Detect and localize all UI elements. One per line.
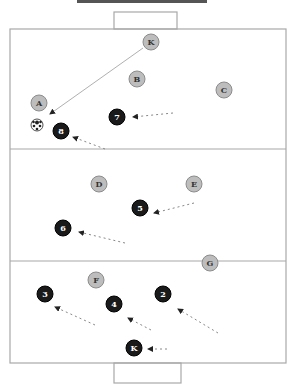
player-label: A: [35, 98, 43, 108]
field-boundary: [10, 29, 286, 363]
opponent-player-f: F: [88, 272, 104, 288]
team-player-3: 3: [37, 286, 53, 302]
player-label: K: [148, 37, 156, 47]
opponent-player-a: A: [31, 95, 47, 111]
player-label: 6: [60, 223, 66, 233]
soccer-field-diagram: KBCADEGF7856324K: [0, 0, 298, 386]
opponent-player-c: C: [216, 82, 232, 98]
team-player-7: 7: [109, 109, 125, 125]
player-label: 7: [114, 112, 120, 122]
movement-arrows: [50, 48, 218, 349]
top-goal: [114, 12, 177, 29]
opponent-player-b: B: [129, 71, 145, 87]
player-label: F: [93, 275, 99, 285]
players: KBCADEGF7856324K: [31, 34, 232, 356]
opponent-player-d: D: [91, 176, 107, 192]
player-label: 8: [58, 126, 64, 136]
player-label: 3: [42, 289, 48, 299]
player-label: B: [134, 74, 141, 84]
player-label: 5: [137, 203, 143, 213]
player-label: E: [191, 179, 197, 189]
field: [10, 12, 286, 383]
opponent-player-k: K: [143, 34, 159, 50]
player-label: G: [207, 258, 214, 268]
bottom-goal: [114, 363, 181, 383]
player-label: K: [131, 343, 139, 353]
player-label: 4: [111, 299, 117, 309]
team-player-2: 2: [155, 286, 171, 302]
run-arrow: [79, 232, 125, 243]
team-player-k: K: [126, 340, 142, 356]
player-label: C: [221, 85, 227, 95]
soccer-ball-icon: [31, 119, 43, 131]
player-label: 2: [160, 289, 166, 299]
team-player-8: 8: [53, 123, 69, 139]
run-arrow: [55, 307, 95, 325]
run-arrow: [178, 309, 218, 333]
run-arrow: [154, 203, 194, 213]
opponent-player-e: E: [186, 176, 202, 192]
run-arrow: [73, 137, 105, 149]
opponent-player-g: G: [202, 255, 218, 271]
team-player-5: 5: [132, 200, 148, 216]
player-label: D: [96, 179, 103, 189]
run-arrow: [133, 113, 173, 117]
team-player-4: 4: [106, 296, 122, 312]
run-arrow: [128, 318, 151, 330]
team-player-6: 6: [55, 220, 71, 236]
